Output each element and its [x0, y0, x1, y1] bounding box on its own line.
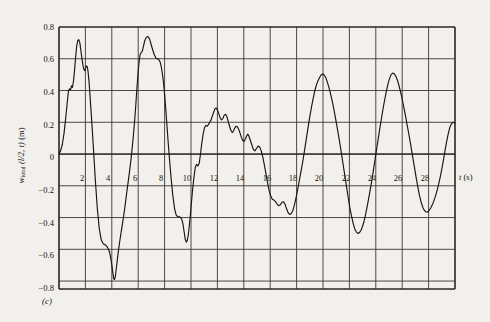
- data-series-line: [59, 37, 455, 280]
- plot-area: [0, 0, 490, 322]
- figure-panel: wtotal (l/2, t) (m) t (s) (c) 0.8 0.6 0.…: [0, 0, 490, 322]
